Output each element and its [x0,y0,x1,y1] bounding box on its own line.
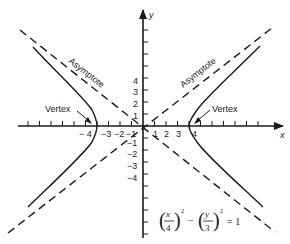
y-tick-label: 4 [133,76,138,86]
eq-exp-1: 2 [181,208,184,214]
y-tick-label: 3 [133,87,138,97]
svg-text:): ) [213,209,220,232]
eq-rhs: = 1 [227,216,240,227]
asymptote-label-left: Asymptote [67,56,107,90]
x-tick-label: 3 [176,129,181,139]
y-tick-label: −2 [127,149,137,159]
svg-text:(: ( [198,209,205,232]
svg-text:(: ( [159,209,166,232]
x-tick-label: −3 [101,129,111,139]
x-tick-label: − 4 [79,129,92,139]
x-axis: x − 4 −3 −2 −1 1 2 3 4 [18,121,285,140]
eq-x-numerator: x [165,209,170,219]
asymptote-line-descending [20,30,275,232]
x-tick-label: 2 [164,129,169,139]
y-tick-label: −4 [127,173,137,183]
eq-x-denominator: 4 [166,223,171,233]
x-axis-label: x [279,130,285,140]
vertex-label-left: Vertex [45,104,71,114]
vertex-arrow-left-icon [77,111,92,124]
y-axis-label: y [148,10,154,20]
y-tick-label: −1 [127,138,137,148]
y-tick-label: 2 [133,99,138,109]
eq-exp-2: 2 [220,208,223,214]
eq-minus: − [188,215,194,226]
asymptote-line-ascending [8,28,272,233]
asymptote-label-right: Asymptote [178,56,218,90]
eq-y-denominator: 3 [205,223,210,233]
asymptotes [8,28,275,233]
x-tick-label: −2 [114,129,124,139]
vertex-arrow-right-icon [194,110,210,124]
hyperbola-equation: ( x 4 ) 2 − ( y 3 ) 2 = 1 [159,208,240,233]
vertex-label-right: Vertex [212,104,238,114]
y-tick-label: −3 [127,161,137,171]
svg-text:): ) [174,209,181,232]
hyperbola-diagram: x − 4 −3 −2 −1 1 2 3 4 [0,0,290,244]
eq-y-numerator: y [204,209,209,219]
